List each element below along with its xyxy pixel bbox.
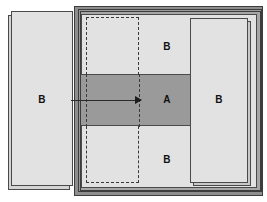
insertion-arrow-line [71,100,141,101]
diagram-canvas: B B A B B [0,0,267,202]
dashed-outline-bottom [86,126,139,183]
label-bottom-region-b: B [157,155,177,165]
label-top-region-b: B [157,42,177,52]
label-left-panel-b: B [32,95,52,105]
dashed-outline-top [86,17,139,75]
label-center-band-a: A [157,95,177,105]
insertion-arrow-head-icon [135,96,142,104]
label-right-panel-b: B [209,95,229,105]
